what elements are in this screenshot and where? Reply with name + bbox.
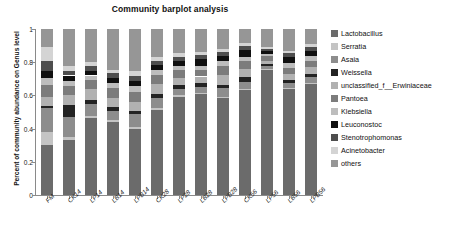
bar-segment[interactable] [107,73,119,78]
bar-segment[interactable] [151,98,163,108]
bar-segment[interactable] [107,29,119,70]
bar-segment[interactable] [129,92,141,102]
bar-column[interactable] [63,29,75,195]
bar-segment[interactable] [305,61,317,68]
bar-segment[interactable] [261,64,273,66]
bar-segment[interactable] [173,85,185,88]
bar-segment[interactable] [41,132,53,145]
bar-segment[interactable] [217,75,229,85]
bar-segment[interactable] [85,66,97,71]
bar-segment[interactable] [173,66,185,70]
bar-segment[interactable] [283,57,295,64]
bar-segment[interactable] [261,69,273,70]
bar-segment[interactable] [261,49,273,51]
bar-segment[interactable] [195,66,207,70]
bar-segment[interactable] [239,90,251,195]
bar-column[interactable] [107,29,119,195]
bar-segment[interactable] [63,76,75,82]
bar-segment[interactable] [305,67,317,74]
bar-segment[interactable] [283,88,295,89]
bar-column[interactable] [173,29,185,195]
legend-item[interactable]: Klebsiella [331,105,454,118]
bar-segment[interactable] [305,77,317,83]
bar-segment[interactable] [151,94,163,98]
bar-column[interactable] [85,29,97,195]
bar-segment[interactable] [63,117,75,137]
bar-segment[interactable] [63,71,75,76]
bar-segment[interactable] [173,78,185,85]
bar-segment[interactable] [283,83,295,88]
bar-column[interactable] [305,29,317,195]
bar-segment[interactable] [217,66,229,74]
bar-segment[interactable] [261,66,273,69]
bar-segment[interactable] [195,77,207,84]
bar-segment[interactable] [261,70,273,195]
legend-item[interactable]: Stenotrophomonas [331,131,454,144]
bar-segment[interactable] [261,29,273,47]
bar-segment[interactable] [129,114,141,126]
bar-segment[interactable] [173,57,185,61]
bar-segment[interactable] [129,129,141,195]
bar-segment[interactable] [283,29,295,51]
bar-segment[interactable] [63,29,75,66]
bar-segment[interactable] [217,88,229,96]
legend-item[interactable]: Pantoea [331,92,454,105]
bar-segment[interactable] [107,98,119,107]
bar-column[interactable] [239,29,251,195]
bar-segment[interactable] [151,110,163,195]
bar-segment[interactable] [305,47,317,51]
bar-segment[interactable] [85,29,97,62]
bar-segment[interactable] [305,74,317,77]
bar-segment[interactable] [85,71,97,76]
bar-segment[interactable] [63,105,75,117]
bar-segment[interactable] [151,70,163,75]
bar-segment[interactable] [107,78,119,83]
bar-segment[interactable] [217,52,229,56]
bar-segment[interactable] [63,140,75,195]
bar-segment[interactable] [41,78,53,85]
bar-segment[interactable] [129,111,141,114]
bar-segment[interactable] [41,85,53,97]
bar-segment[interactable] [63,81,75,86]
bar-segment[interactable] [217,85,229,89]
bar-segment[interactable] [63,95,75,105]
bar-segment[interactable] [283,74,295,80]
bar-column[interactable] [129,29,141,195]
bar-segment[interactable] [129,86,141,92]
bar-segment[interactable] [305,29,317,44]
bar-segment[interactable] [107,120,119,122]
bar-segment[interactable] [107,83,119,88]
bar-segment[interactable] [195,55,207,59]
bar-segment[interactable] [195,70,207,77]
bar-segment[interactable] [195,87,207,93]
bar-segment[interactable] [85,100,97,103]
legend-item[interactable]: Acinetobacter [331,144,454,157]
bar-segment[interactable] [107,107,119,110]
legend-item[interactable]: Weissella [331,66,454,79]
bar-segment[interactable] [283,89,295,195]
bar-segment[interactable] [261,47,273,49]
bar-segment[interactable] [283,63,295,67]
bar-segment[interactable] [217,49,229,52]
bar-segment[interactable] [85,104,97,116]
bar-segment[interactable] [173,70,185,77]
bar-segment[interactable] [63,66,75,71]
bar-segment[interactable] [283,51,295,53]
bar-segment[interactable] [41,61,53,70]
legend-item[interactable]: others [331,157,454,170]
bar-column[interactable] [217,29,229,195]
bar-segment[interactable] [239,43,251,46]
bar-segment[interactable] [63,86,75,95]
bar-segment[interactable] [195,52,207,55]
bar-segment[interactable] [239,50,251,56]
bar-segment[interactable] [283,68,295,75]
bar-segment[interactable] [151,57,163,61]
bar-segment[interactable] [107,70,119,73]
bar-segment[interactable] [261,54,273,56]
bar-segment[interactable] [151,84,163,94]
bar-column[interactable] [261,29,273,195]
bar-column[interactable] [283,29,295,195]
bar-segment[interactable] [151,75,163,84]
bar-segment[interactable] [151,61,163,65]
bar-segment[interactable] [217,98,229,195]
